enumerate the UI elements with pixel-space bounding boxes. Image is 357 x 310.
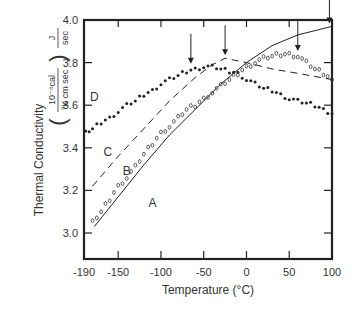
series-label-A: A [148, 196, 156, 210]
y-axis-label: Thermal Conductivity [32, 104, 46, 217]
x-axis-label: Temperature (°C) [162, 283, 254, 297]
arrow-icon [222, 25, 228, 55]
series-label-B: B [123, 164, 131, 178]
series-B [91, 51, 333, 222]
series-label-C: C [104, 145, 113, 159]
svg-text:J: J [47, 36, 57, 41]
x-tick-label: 100 [323, 266, 341, 278]
plot-area: ABCD [84, 0, 333, 227]
axes: -190-150-100-500501003.03.23.43.63.84.01… [45, 14, 341, 278]
svg-text:°K cm sec: °K cm sec [60, 69, 70, 110]
x-tick-label: -100 [150, 266, 172, 278]
thermal-conductivity-chart: -190-150-100-500501003.03.23.43.63.84.01… [0, 0, 357, 310]
x-tick-label: -190 [73, 266, 95, 278]
arrow-icon [188, 34, 194, 64]
y-tick-label: 3.4 [63, 142, 78, 154]
y-tick-label: 3.2 [63, 184, 78, 196]
svg-text:sec: sec [60, 31, 70, 46]
y-tick-label: 4.0 [63, 14, 78, 26]
y-tick-label: 3.0 [63, 227, 78, 239]
x-tick-label: 0 [243, 266, 249, 278]
svg-text:): ) [45, 54, 70, 61]
series-label-D: D [90, 90, 99, 104]
svg-text:(: ( [45, 118, 70, 126]
svg-text:10⁻⁶cal: 10⁻⁶cal [47, 75, 57, 105]
x-tick-label: -150 [107, 266, 129, 278]
x-tick-label: 50 [283, 266, 295, 278]
svg-text:Thermal Conductivity: Thermal Conductivity [32, 104, 46, 217]
x-tick-label: -50 [196, 266, 212, 278]
